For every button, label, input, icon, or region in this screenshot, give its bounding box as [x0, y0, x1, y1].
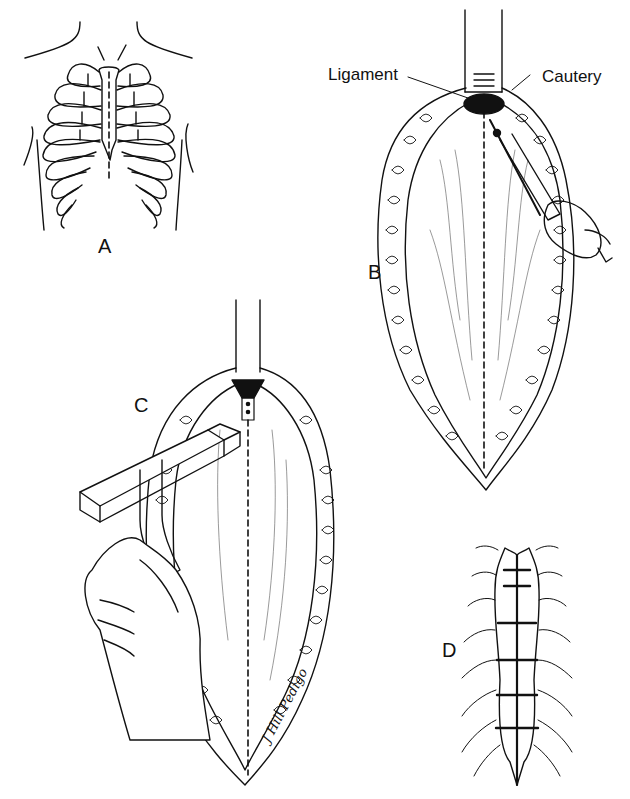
illustration-drawing [0, 0, 630, 799]
surgical-illustration: A B C D Ligament Cautery J Hill Pedigo [0, 0, 630, 799]
panel-label-c: C [134, 395, 148, 415]
panel-label-b: B [368, 262, 381, 282]
panel-d-wired-sternum [462, 546, 572, 785]
panel-a-ribcage [24, 22, 193, 230]
panel-label-d: D [442, 640, 456, 660]
panel-label-a: A [98, 236, 111, 256]
panel-c-sternal-saw [80, 300, 334, 785]
callout-cautery: Cautery [542, 68, 602, 85]
callout-ligament: Ligament [328, 66, 398, 83]
